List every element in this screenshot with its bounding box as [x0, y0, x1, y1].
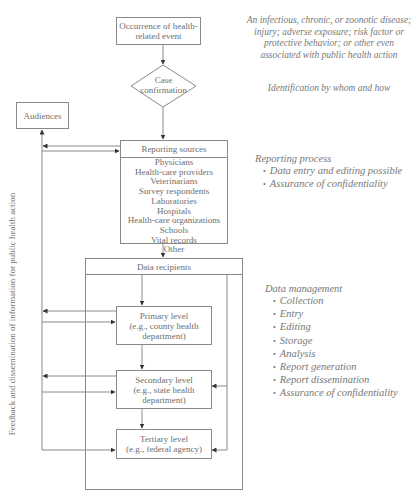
event-description-line: injury; adverse exposure; risk factor or	[240, 27, 418, 39]
bullet-icon: •	[273, 336, 276, 348]
reporting-sources-list: Physicians Health-care providers Veterin…	[121, 158, 227, 255]
primary-line-3: department)	[117, 331, 211, 342]
bullet-icon: •	[273, 349, 276, 361]
data-management-item: •Collection	[273, 295, 398, 308]
reporting-sources-node: Reporting sources Physicians Health-care…	[120, 140, 228, 244]
bullet-icon: •	[263, 166, 266, 178]
secondary-line-3: department)	[117, 395, 211, 406]
primary-line-2: (e.g., county health	[117, 321, 211, 332]
data-management-item: •Editing	[273, 321, 398, 334]
bullet-icon: •	[273, 309, 276, 321]
audiences-label: Audiences	[17, 111, 68, 122]
primary-level-node: Primary level (e.g., county health depar…	[116, 306, 212, 345]
identification-note: Identification by whom and how	[240, 83, 418, 95]
occurrence-line-1: Occurrence of health-	[117, 21, 200, 32]
event-description-line: protective behavior; or other even	[240, 38, 418, 50]
reporting-process-title: Reporting process	[255, 153, 402, 165]
bullet-icon: •	[273, 388, 276, 400]
case-confirmation-line-2: confirmation	[131, 85, 196, 96]
data-management-item: •Storage	[273, 335, 398, 348]
audiences-node: Audiences	[16, 102, 69, 129]
tertiary-line-1: Tertiary level	[117, 434, 211, 445]
tertiary-line-2: (e.g., federal agency)	[117, 444, 211, 455]
reporting-process-note: Reporting process •Data entry and editin…	[255, 153, 402, 191]
secondary-line-1: Secondary level	[117, 375, 211, 386]
reporting-process-item: •Data entry and editing possible	[263, 165, 402, 178]
bullet-icon: •	[273, 362, 276, 374]
bullet-icon: •	[273, 296, 276, 308]
data-recipients-title: Data recipients	[86, 262, 242, 273]
tertiary-level-node: Tertiary level (e.g., federal agency)	[116, 429, 212, 459]
data-management-title: Data management	[265, 283, 398, 295]
bullet-icon: •	[263, 179, 266, 191]
bullet-icon: •	[273, 322, 276, 334]
secondary-level-node: Secondary level (e.g., state health depa…	[116, 370, 212, 409]
bullet-icon: •	[273, 375, 276, 387]
source-item: Other	[121, 245, 227, 255]
data-management-item: •Analysis	[273, 348, 398, 361]
data-management-note: Data management •Collection •Entry •Edit…	[265, 283, 398, 401]
primary-line-1: Primary level	[117, 311, 211, 322]
event-description-note: An infectious, chronic, or zoonotic dise…	[240, 15, 418, 61]
data-management-item: •Assurance of confidentiality	[273, 387, 398, 400]
event-description-line: An infectious, chronic, or zoonotic dise…	[240, 15, 418, 27]
secondary-line-2: (e.g., state health	[117, 385, 211, 396]
data-management-item: •Entry	[273, 308, 398, 321]
occurrence-line-2: related event	[117, 31, 200, 42]
occurrence-node: Occurrence of health- related event	[116, 17, 201, 45]
case-confirmation-line-1: Case	[131, 75, 196, 86]
feedback-side-label: Feedback and dissemination of informatio…	[6, 179, 18, 449]
data-management-item: •Report dissemination	[273, 374, 398, 387]
reporting-process-item: •Assurance of confidentiality	[263, 178, 402, 191]
event-description-line: associated with public health action	[240, 50, 418, 62]
reporting-sources-title: Reporting sources	[121, 144, 227, 155]
data-management-item: •Report generation	[273, 361, 398, 374]
data-recipients-divider	[86, 274, 242, 275]
